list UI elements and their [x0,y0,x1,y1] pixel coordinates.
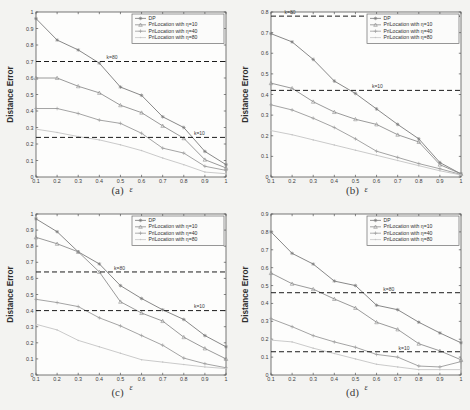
svg-text:0.2: 0.2 [53,376,61,382]
svg-text:0.6: 0.6 [138,376,146,382]
svg-text:0.7: 0.7 [26,59,34,65]
svg-text:0.3: 0.3 [309,376,317,382]
svg-text:0.7: 0.7 [159,376,167,382]
svg-text:PriLocation with η=80: PriLocation with η=80 [384,34,433,40]
figure-panel-grid: 0.10.20.30.40.50.60.70.80.9100.10.20.30.… [0,0,470,410]
svg-text:0.9: 0.9 [436,376,444,382]
svg-text:0.2: 0.2 [26,141,34,147]
svg-text:PriLocation with η=10: PriLocation with η=10 [149,223,198,229]
chart-panel-a: 0.10.20.30.40.50.60.70.80.9100.10.20.30.… [0,0,235,205]
svg-text:0.8: 0.8 [180,376,188,382]
svg-text:0.2: 0.2 [288,376,296,382]
svg-text:0.3: 0.3 [261,318,269,324]
svg-text:k=80: k=80 [107,54,118,60]
svg-text:0: 0 [31,372,34,378]
svg-text:0.9: 0.9 [261,211,269,217]
svg-text:0.3: 0.3 [261,112,269,118]
svg-text:0: 0 [266,372,269,378]
svg-text:0.5: 0.5 [261,71,269,77]
svg-text:0.5: 0.5 [352,376,360,382]
svg-text:0.7: 0.7 [261,247,269,253]
svg-text:0: 0 [266,174,269,180]
svg-text:0.6: 0.6 [26,275,34,281]
svg-text:0.8: 0.8 [26,243,34,249]
svg-text:PriLocation with η=40: PriLocation with η=40 [384,28,433,34]
svg-text:0.3: 0.3 [26,125,34,131]
svg-text:0.1: 0.1 [26,158,34,164]
svg-text:0.8: 0.8 [415,376,423,382]
svg-text:PriLocation with η=40: PriLocation with η=40 [149,230,198,236]
chart-panel-b: 0.10.20.30.40.50.60.70.80.9100.10.20.30.… [235,0,470,205]
svg-text:0.6: 0.6 [261,265,269,271]
svg-text:Distance Error: Distance Error [6,265,15,322]
svg-text:0.7: 0.7 [394,376,402,382]
svg-text:Distance Error: Distance Error [241,65,250,122]
svg-text:DP: DP [384,15,392,21]
svg-text:0.6: 0.6 [373,376,381,382]
svg-text:0.3: 0.3 [26,324,34,330]
svg-text:PriLocation with η=10: PriLocation with η=10 [149,21,198,27]
chart-panel-d: 0.10.20.30.40.50.60.70.80.9100.10.20.30.… [235,200,470,405]
svg-text:0.3: 0.3 [74,376,82,382]
svg-text:Distance Error: Distance Error [6,65,15,122]
svg-text:0.5: 0.5 [117,376,125,382]
svg-text:k=80: k=80 [114,265,125,271]
svg-text:0.4: 0.4 [26,108,34,114]
svg-text:0.4: 0.4 [261,300,269,306]
panel-caption-c: (c) [0,386,235,398]
chart-panel-c: 0.10.20.30.40.50.60.70.80.9100.10.20.30.… [0,200,235,405]
svg-text:0.9: 0.9 [26,26,34,32]
svg-text:0.5: 0.5 [26,292,34,298]
svg-text:DP: DP [149,15,157,21]
svg-text:0.2: 0.2 [261,133,269,139]
svg-text:Distance Error: Distance Error [241,265,250,322]
svg-text:0.4: 0.4 [331,376,339,382]
svg-text:PriLocation with η=80: PriLocation with η=80 [149,34,198,40]
svg-text:k=80: k=80 [383,286,394,292]
svg-text:PriLocation with η=10: PriLocation with η=10 [384,223,433,229]
svg-text:1: 1 [31,211,34,217]
plot-a: 0.10.20.30.40.50.60.70.80.9100.10.20.30.… [0,0,235,205]
svg-text:0.9: 0.9 [26,227,34,233]
svg-text:DP: DP [384,217,392,223]
panel-caption-a: (a) [0,184,235,196]
svg-text:0: 0 [31,174,34,180]
svg-text:0.7: 0.7 [261,30,269,36]
svg-text:0.2: 0.2 [26,340,34,346]
svg-text:k=10: k=10 [194,130,205,136]
svg-text:0.2: 0.2 [261,336,269,342]
svg-text:0.6: 0.6 [26,75,34,81]
svg-text:PriLocation with η=40: PriLocation with η=40 [149,28,198,34]
svg-text:0.1: 0.1 [261,354,269,360]
svg-text:0.1: 0.1 [261,153,269,159]
svg-text:0.1: 0.1 [26,356,34,362]
svg-text:1: 1 [460,376,463,382]
svg-text:k=10: k=10 [399,345,410,351]
svg-text:0.8: 0.8 [261,9,269,15]
svg-text:0.9: 0.9 [201,376,209,382]
svg-text:0.4: 0.4 [261,92,269,98]
panel-caption-d: (d) [235,386,470,398]
svg-text:0.4: 0.4 [96,376,104,382]
panel-caption-b: (b) [235,184,470,196]
svg-text:0.5: 0.5 [261,283,269,289]
svg-text:0.7: 0.7 [26,259,34,265]
svg-text:DP: DP [149,217,157,223]
svg-text:PriLocation with η=10: PriLocation with η=10 [384,21,433,27]
svg-text:1: 1 [31,9,34,15]
svg-text:k=10: k=10 [372,83,383,89]
svg-text:PriLocation with η=40: PriLocation with η=40 [384,230,433,236]
svg-text:0.4: 0.4 [26,308,34,314]
svg-text:PriLocation with η=80: PriLocation with η=80 [149,236,198,242]
plot-c: 0.10.20.30.40.50.60.70.80.9100.10.20.30.… [0,200,235,405]
svg-text:k=80: k=80 [285,9,296,15]
svg-text:0.8: 0.8 [26,42,34,48]
svg-text:0.5: 0.5 [26,92,34,98]
svg-text:1: 1 [225,376,228,382]
svg-text:PriLocation with η=80: PriLocation with η=80 [384,236,433,242]
plot-b: 0.10.20.30.40.50.60.70.80.9100.10.20.30.… [235,0,470,205]
svg-text:0.8: 0.8 [261,229,269,235]
plot-d: 0.10.20.30.40.50.60.70.80.9100.10.20.30.… [235,200,470,405]
svg-text:0.6: 0.6 [261,50,269,56]
svg-text:k=10: k=10 [194,303,205,309]
